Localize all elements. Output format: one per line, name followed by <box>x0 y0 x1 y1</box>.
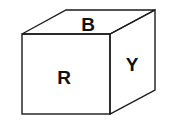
right-face-label: Y <box>126 54 139 75</box>
front-face-label: R <box>57 67 71 88</box>
cube-diagram: B R Y <box>0 0 170 122</box>
top-face-label: B <box>81 14 95 35</box>
